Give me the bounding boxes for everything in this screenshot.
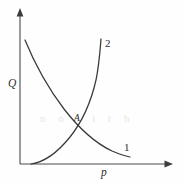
y-axis-arrow-icon — [17, 8, 24, 17]
x-axis — [20, 161, 173, 168]
plot-canvas — [0, 0, 183, 183]
point-a-label: A — [74, 114, 80, 124]
demand-curve-1 — [25, 40, 130, 157]
y-axis — [17, 8, 24, 164]
y-axis-label: Q — [8, 78, 16, 90]
economics-supply-demand-figure: n o t i t h Q p 2 1 A — [0, 0, 183, 183]
curve-1-label: 1 — [124, 142, 130, 153]
supply-curve-2 — [31, 39, 101, 164]
x-axis-arrow-icon — [165, 161, 174, 168]
x-axis-label: p — [101, 167, 107, 179]
curve-2-label: 2 — [105, 38, 111, 49]
